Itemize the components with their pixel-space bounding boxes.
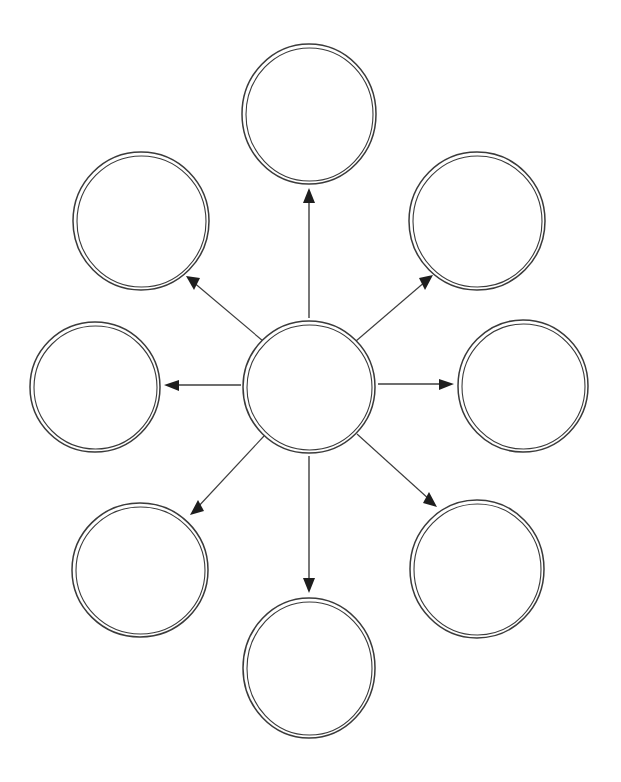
bubble-bottom-left-outline-outer bbox=[72, 503, 208, 637]
center-bubble-outline-outer bbox=[243, 321, 375, 453]
arrow-to-top-right[interactable] bbox=[356, 275, 433, 341]
bubble-top[interactable] bbox=[242, 44, 376, 184]
bubble-bottom-outline-outer bbox=[243, 598, 375, 738]
arrow-to-bottom-left[interactable] bbox=[190, 436, 264, 515]
bubble-bottom-left[interactable] bbox=[72, 503, 208, 637]
bubble-bottom-right-outline-outer bbox=[410, 500, 544, 638]
bubble-left-outline-outer bbox=[30, 322, 160, 452]
arrow-to-left[interactable] bbox=[164, 380, 241, 391]
bubble-right-outline-outer bbox=[458, 320, 588, 452]
arrow-to-bottom-head bbox=[303, 578, 315, 593]
arrow-to-bottom-left-shaft bbox=[197, 436, 264, 508]
bubble-group bbox=[30, 44, 588, 738]
bubble-map-diagram bbox=[0, 0, 621, 782]
arrow-to-bottom-right[interactable] bbox=[357, 434, 437, 507]
bubble-bottom-right[interactable] bbox=[410, 500, 544, 638]
arrow-to-bottom-right-shaft bbox=[357, 434, 430, 500]
arrow-to-top-left-head bbox=[186, 276, 200, 290]
arrow-to-bottom-right-head bbox=[423, 492, 437, 507]
arrow-to-top-head bbox=[303, 188, 315, 203]
bubble-right[interactable] bbox=[458, 320, 588, 452]
bubble-top-left[interactable] bbox=[73, 152, 209, 290]
bubble-bottom[interactable] bbox=[243, 598, 375, 738]
arrow-to-top-right-head bbox=[419, 275, 433, 290]
bubble-top-right-outline-outer bbox=[409, 152, 545, 290]
bubble-top-right[interactable] bbox=[409, 152, 545, 290]
bubble-left[interactable] bbox=[30, 322, 160, 452]
bubble-top-left-outline-outer bbox=[73, 152, 209, 290]
bubble-top-outline-outer bbox=[242, 44, 376, 184]
center-bubble[interactable] bbox=[243, 321, 375, 453]
arrow-to-top-left-shaft bbox=[192, 281, 263, 341]
arrow-to-right-head bbox=[439, 379, 454, 390]
arrow-to-top-right-shaft bbox=[356, 281, 426, 341]
arrow-to-top-left[interactable] bbox=[186, 276, 263, 341]
arrow-to-bottom[interactable] bbox=[303, 456, 315, 593]
graphic-organizer-canvas bbox=[0, 0, 621, 782]
arrow-to-left-head bbox=[164, 380, 179, 391]
arrow-to-top[interactable] bbox=[303, 188, 315, 318]
arrow-to-right[interactable] bbox=[378, 379, 454, 390]
